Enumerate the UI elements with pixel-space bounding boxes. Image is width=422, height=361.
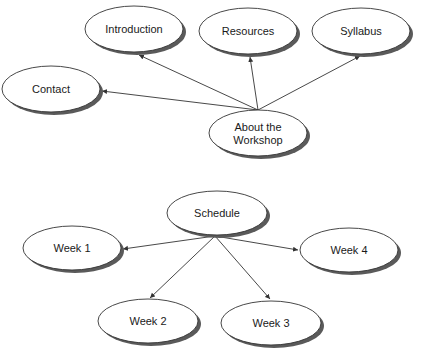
schedule-diagram: Schedule Week 1 Week 4 Week 2 Week 3 [23,191,401,348]
node-label: Schedule [194,207,240,219]
edge-about-to-contact [102,91,258,110]
node-week-1[interactable]: Week 1 [23,226,124,273]
edge-about-to-syllabus [258,56,360,110]
node-ellipse [209,110,307,156]
node-contact[interactable]: Contact [2,66,103,115]
about-edges [102,55,360,110]
site-map-diagram: Introduction Resources Syllabus Contact … [0,0,422,361]
node-label: Week 2 [129,315,166,327]
about-workshop-diagram: Introduction Resources Syllabus Contact … [2,6,413,159]
edge-schedule-to-week2 [150,236,215,298]
node-label: About the [234,121,281,133]
node-week-2[interactable]: Week 2 [98,299,201,346]
edge-schedule-to-week4 [215,236,298,250]
node-week-4[interactable]: Week 4 [300,228,401,275]
node-introduction[interactable]: Introduction [85,6,186,55]
edge-about-to-resources [250,57,258,110]
node-label: Syllabus [340,25,382,37]
node-label: Introduction [105,23,162,35]
node-schedule[interactable]: Schedule [167,191,270,238]
edge-about-to-introduction [139,55,258,110]
node-resources[interactable]: Resources [199,8,300,57]
edge-schedule-to-week3 [215,236,270,299]
schedule-edges [123,236,298,299]
node-label: Week 3 [252,317,289,329]
node-about-the-workshop[interactable]: About the Workshop [209,110,310,159]
node-label: Week 1 [53,242,90,254]
node-label: Contact [32,83,70,95]
node-week-3[interactable]: Week 3 [221,301,324,348]
edge-schedule-to-week1 [123,236,215,249]
node-label: Week 4 [330,244,367,256]
node-label: Resources [222,25,275,37]
node-syllabus[interactable]: Syllabus [312,8,413,57]
node-label: Workshop [233,134,282,146]
